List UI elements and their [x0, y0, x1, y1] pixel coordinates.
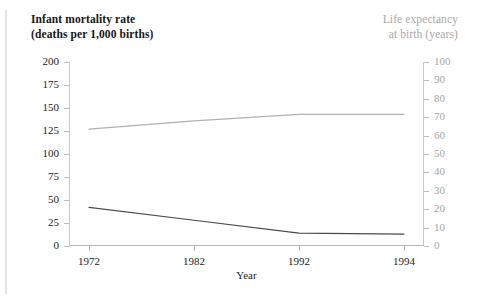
- left-tick-label: 50: [48, 193, 59, 205]
- plot-area: 2001751501251007550250 10090807060504030…: [69, 62, 424, 246]
- right-tick-mark: [424, 117, 429, 118]
- left-tick-label: 100: [43, 147, 60, 159]
- series-line: [89, 114, 404, 129]
- left-tick-label: 200: [43, 55, 60, 67]
- left-axis-title: Infant mortality rate (deaths per 1,000 …: [31, 12, 153, 41]
- right-tick-mark: [424, 80, 429, 81]
- x-tick-label: 1992: [288, 255, 310, 267]
- right-tick-label: 10: [434, 221, 445, 233]
- right-tick-mark: [424, 62, 429, 63]
- right-tick-label: 30: [434, 184, 445, 196]
- x-tick-label: 1972: [78, 255, 100, 267]
- right-tick-mark: [424, 172, 429, 173]
- right-tick-label: 90: [434, 73, 445, 85]
- right-tick-label: 70: [434, 110, 445, 122]
- right-tick-label: 60: [434, 129, 445, 141]
- x-tick-mark: [299, 246, 300, 251]
- left-tick-label: 75: [48, 170, 59, 182]
- left-tick-label: 150: [43, 101, 60, 113]
- left-tick-label: 25: [48, 216, 59, 228]
- x-axis-label: Year: [69, 269, 424, 281]
- right-tick-mark: [424, 154, 429, 155]
- x-tick-label: 1994: [393, 255, 415, 267]
- right-tick-mark: [424, 136, 429, 137]
- left-tick-label: 125: [43, 124, 60, 136]
- right-axis-title: Life expectancy at birth (years): [383, 12, 458, 41]
- right-tick-label: 20: [434, 202, 445, 214]
- x-tick-mark: [404, 246, 405, 251]
- right-tick-mark: [424, 209, 429, 210]
- left-tick-mark: [64, 246, 69, 247]
- right-tick-mark: [424, 246, 429, 247]
- series-lines: [69, 62, 424, 246]
- right-tick-mark: [424, 228, 429, 229]
- x-tick-mark: [89, 246, 90, 251]
- right-tick-mark: [424, 191, 429, 192]
- right-tick-label: 100: [434, 55, 451, 67]
- chart-figure: Infant mortality rate (deaths per 1,000 …: [0, 0, 491, 298]
- right-tick-label: 50: [434, 147, 445, 159]
- series-line: [89, 207, 404, 234]
- right-tick-mark: [424, 99, 429, 100]
- left-tick-label: 0: [54, 239, 60, 251]
- right-tick-label: 40: [434, 165, 445, 177]
- right-tick-label: 80: [434, 92, 445, 104]
- right-tick-label: 0: [434, 239, 440, 251]
- x-tick-label: 1982: [183, 255, 205, 267]
- x-tick-mark: [194, 246, 195, 251]
- left-tick-label: 175: [43, 78, 60, 90]
